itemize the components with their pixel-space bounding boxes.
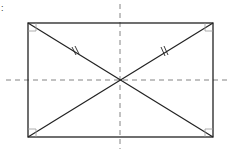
rectangle-diagram (0, 0, 227, 150)
